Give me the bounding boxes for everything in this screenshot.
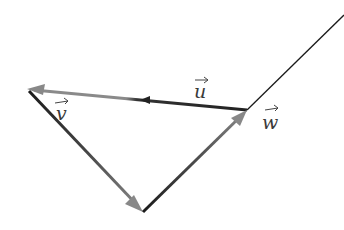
arrowhead-v-icon (125, 195, 143, 212)
mid-arrow-u-icon (140, 96, 150, 104)
vector-diagram: u v w (0, 0, 344, 230)
label-u: u (194, 77, 208, 102)
svg-text:v: v (56, 102, 67, 124)
extension-line (247, 15, 344, 110)
label-w: w (262, 105, 278, 133)
vector-w (143, 110, 247, 212)
svg-text:w: w (262, 111, 278, 133)
vector-v (29, 91, 143, 212)
label-v: v (55, 98, 68, 124)
